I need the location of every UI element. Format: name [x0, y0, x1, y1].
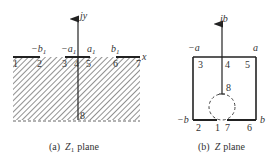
point-2: 2: [37, 58, 42, 69]
caption-b: (b)Zplane: [198, 141, 245, 153]
point-4: 4: [74, 58, 79, 69]
x-axis-label: x: [141, 51, 147, 62]
caption-a: (a)Z1plane: [49, 141, 99, 154]
label-minus-a: −a: [188, 42, 200, 53]
jb-axis-label: jb: [218, 13, 228, 24]
label-minus-a1: −a1: [61, 43, 76, 56]
label-b1: b1: [111, 43, 120, 56]
point-1: 1: [13, 58, 18, 69]
point-8: 8: [80, 110, 85, 121]
point-7: 7: [225, 122, 230, 133]
panel-z-plane: jb −a a −b b 3 4 5 8 2 1 7 6 (b)Zplane: [177, 13, 265, 153]
panel-z1-plane: jy x −b1 −a1 a1 b1 1 2 3 4 5 6 7 8 (a)Z1…: [13, 10, 147, 154]
label-minus-b: −b: [177, 114, 189, 125]
label-b: b: [260, 114, 265, 125]
point-6: 6: [113, 58, 118, 69]
label-a: a: [253, 42, 258, 53]
point-8: 8: [226, 82, 231, 93]
point-6: 6: [247, 122, 252, 133]
jy-axis-label: jy: [78, 10, 88, 21]
point-3: 3: [62, 58, 67, 69]
conformal-map-figure: jy x −b1 −a1 a1 b1 1 2 3 4 5 6 7 8 (a)Z1…: [0, 0, 279, 162]
point-1: 1: [215, 122, 220, 133]
label-a1: a1: [87, 43, 96, 56]
point-7: 7: [136, 58, 141, 69]
point-2: 2: [196, 122, 201, 133]
point-5: 5: [86, 58, 91, 69]
point-4: 4: [225, 59, 230, 70]
point-5: 5: [245, 59, 250, 70]
dashed-circle: [209, 94, 235, 120]
label-minus-b1: −b1: [31, 43, 46, 56]
point-3: 3: [198, 59, 203, 70]
